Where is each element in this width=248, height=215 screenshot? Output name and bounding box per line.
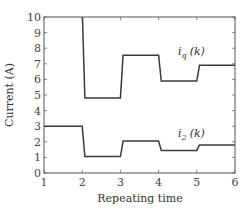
series-label-iq: iq(k): [178, 45, 205, 60]
y-axis-label: Current (A): [3, 63, 16, 127]
y-tick-label: 3: [34, 120, 41, 133]
x-tick-label: 5: [193, 176, 200, 189]
series-line-i2: [44, 126, 235, 156]
y-tick-label: 9: [34, 27, 41, 40]
y-tick-label: 0: [34, 167, 41, 180]
x-tick-label: 4: [155, 176, 162, 189]
series-label-i2: i2(k): [178, 127, 205, 142]
y-tick-label: 10: [27, 11, 41, 24]
y-tick-label: 1: [34, 151, 41, 164]
axis-ticks: [44, 17, 235, 173]
x-tick-label: 3: [117, 176, 124, 189]
current-step-chart: 123456012345678910 Current (A) Repeating…: [0, 0, 248, 215]
y-tick-label: 2: [34, 136, 41, 149]
y-tick-label: 7: [34, 58, 41, 71]
data-series: [44, 9, 235, 156]
tick-labels: 123456012345678910: [27, 11, 239, 189]
series-line-iq: [44, 9, 235, 98]
x-axis-label: Repeating time: [97, 192, 182, 205]
y-tick-label: 5: [34, 89, 41, 102]
y-tick-label: 6: [34, 73, 41, 86]
series-labels: iq(k)i2(k): [178, 45, 205, 142]
x-tick-label: 2: [79, 176, 86, 189]
y-tick-label: 4: [34, 105, 41, 118]
x-tick-label: 6: [232, 176, 239, 189]
x-tick-label: 1: [41, 176, 48, 189]
plot-frame: [44, 17, 235, 173]
y-tick-label: 8: [34, 42, 41, 55]
